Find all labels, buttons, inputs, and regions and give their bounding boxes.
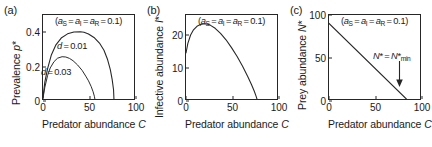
curve-label-d003: d = 0.03 xyxy=(41,67,71,77)
x-tick-a-2: 100 xyxy=(128,102,145,113)
x-axis-title-b-text: Predator abundance xyxy=(185,118,281,130)
x-axis-title-b: Predator abundance C xyxy=(185,118,278,130)
x-axis-title-c: Predator abundance C xyxy=(328,118,421,130)
y-tick-c-1: 50 xyxy=(315,53,326,64)
annotation-arrow-icon xyxy=(395,61,404,87)
curve-label-d001: d = 0.01 xyxy=(57,41,87,51)
plot-curves-b xyxy=(186,15,277,99)
y-axis-title-b: Infective abundance I* xyxy=(153,16,165,118)
x-tick-a-1: 50 xyxy=(84,102,95,113)
plot-frame-b: (aS = aI = aR = 0.1) 0 10 20 0 50 100 xyxy=(185,14,278,100)
y-tick-a-0: 0 xyxy=(34,96,40,107)
y-axis-star-b: * xyxy=(153,16,165,20)
panel-label-b: (b) xyxy=(147,4,160,16)
y-tick-b-2: 20 xyxy=(172,29,183,40)
y-axis-title-a-symbol: p xyxy=(10,45,22,51)
x-tick-b-1: 50 xyxy=(227,102,238,113)
x-tick-c-1: 50 xyxy=(370,102,381,113)
y-axis-title-c-symbol: N xyxy=(296,25,308,32)
panel-label-c: (c) xyxy=(290,4,302,16)
x-tick-b-2: 100 xyxy=(271,102,288,113)
y-tick-c-0: 0 xyxy=(320,96,326,107)
y-tick-b-0: 0 xyxy=(177,96,183,107)
y-tick-a-1: 0.2 xyxy=(26,61,40,72)
y-axis-star-a: * xyxy=(10,41,22,45)
plot-frame-c: (aS = aI = aR = 0.1) N* = N*min 0 50 100… xyxy=(328,14,421,100)
x-axis-title-c-text: Predator abundance xyxy=(328,118,424,130)
panel-a: (a) Prevalence p* (aS = aI = aR = 0.1) d… xyxy=(0,0,145,147)
x-axis-title-a-text: Predator abundance xyxy=(42,118,138,130)
x-tick-b-0: 0 xyxy=(183,102,189,113)
x-tick-a-0: 0 xyxy=(40,102,46,113)
plot-curves-a xyxy=(43,15,134,99)
x-axis-title-a: Predator abundance C xyxy=(42,118,135,130)
panel-label-a: (a) xyxy=(4,4,17,16)
x-tick-c-2: 100 xyxy=(414,102,431,113)
y-tick-c-2: 100 xyxy=(309,10,326,21)
plot-frame-a: (aS = aI = aR = 0.1) d = 0.01 d = 0.03 0… xyxy=(42,14,135,100)
y-axis-star-c: * xyxy=(296,21,308,25)
y-axis-title-c-text: Prey abundance xyxy=(296,32,308,110)
panel-b: (b) Infective abundance I* (aS = aI = aR… xyxy=(143,0,288,147)
y-axis-title-b-text: Infective abundance xyxy=(153,23,165,118)
annotation-nmin: N* = N*min xyxy=(373,51,410,61)
y-axis-title-a: Prevalence p* xyxy=(10,41,22,105)
x-tick-c-0: 0 xyxy=(326,102,332,113)
y-axis-title-b-symbol: I xyxy=(153,20,165,23)
y-tick-b-1: 10 xyxy=(172,62,183,73)
y-axis-title-c: Prey abundance N* xyxy=(296,21,308,110)
y-tick-a-2: 0.4 xyxy=(26,27,40,38)
y-axis-title-a-text: Prevalence xyxy=(10,51,22,105)
panel-c: (c) Prey abundance N* (aS = aI = aR = 0.… xyxy=(286,0,430,147)
x-axis-title-c-symbol: C xyxy=(424,118,431,130)
